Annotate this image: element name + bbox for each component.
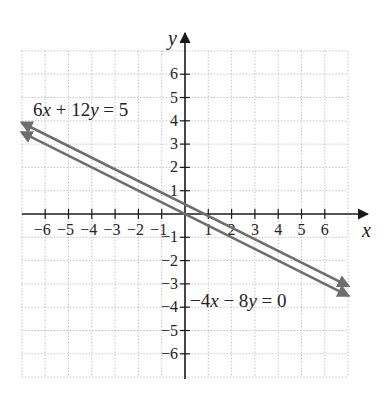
- y-tick-label: 6: [170, 65, 178, 82]
- y-tick-label: −5: [161, 322, 178, 339]
- y-tick-label: −4: [161, 298, 178, 315]
- y-tick-label: −1: [161, 228, 178, 245]
- x-axis-label: x: [361, 219, 371, 241]
- axes: xy: [22, 27, 371, 379]
- x-tick-label: 5: [298, 221, 306, 238]
- x-tick-label: −3: [104, 221, 121, 238]
- y-tick-label: −2: [161, 252, 178, 269]
- x-tick-label: −4: [80, 221, 97, 238]
- x-tick-label: −6: [34, 221, 51, 238]
- y-tick-label: −3: [161, 275, 178, 292]
- x-tick-label: 4: [274, 221, 282, 238]
- y-tick-label: 5: [170, 89, 178, 106]
- y-tick-label: −6: [161, 345, 178, 362]
- y-tick-label: 2: [170, 158, 178, 175]
- y-tick-label: 3: [170, 135, 178, 152]
- y-tick-label: 4: [170, 112, 178, 129]
- x-tick-label: 3: [251, 221, 259, 238]
- coordinate-plane: xy −6−5−4−3−2−1123456−6−5−4−3−2−1123456 …: [0, 0, 391, 398]
- equation-labels: 6x + 12y = 5−4x − 8y = 0: [33, 99, 287, 311]
- equation-label-1: 6x + 12y = 5: [33, 99, 128, 120]
- x-tick-label: −5: [57, 221, 74, 238]
- chart-container: xy −6−5−4−3−2−1123456−6−5−4−3−2−1123456 …: [0, 0, 391, 398]
- x-tick-label: −2: [127, 221, 144, 238]
- equation-label-2: −4x − 8y = 0: [190, 290, 287, 311]
- x-tick-label: 6: [321, 221, 329, 238]
- y-axis-label: y: [166, 27, 177, 50]
